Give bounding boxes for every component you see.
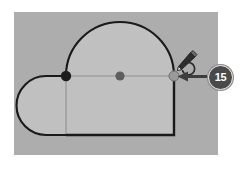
pen-tool-cursor	[178, 51, 198, 75]
node-left[interactable]	[61, 71, 71, 81]
node-right-selected[interactable]	[169, 71, 179, 81]
callout-badge[interactable]: 15	[208, 65, 233, 90]
node-middle[interactable]	[115, 71, 124, 80]
callout-badge-number: 15	[215, 72, 227, 83]
callout-arrow-head-icon	[178, 72, 189, 82]
screenshot-root: 15	[0, 0, 250, 169]
shape-fill-group	[17, 22, 174, 135]
